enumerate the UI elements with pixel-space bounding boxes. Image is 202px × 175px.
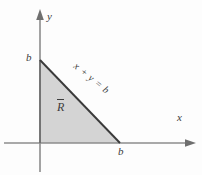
x-axis-label: x <box>177 112 182 123</box>
x-axis-tick-label-b: b <box>118 146 124 157</box>
y-axis-tick-label-b: b <box>26 52 32 63</box>
y-axis-arrowhead <box>36 9 44 20</box>
x-axis-arrowhead <box>185 139 196 147</box>
region-label-text: R <box>57 101 64 113</box>
y-axis-label: y <box>47 11 52 22</box>
region-label-r-bar: R <box>57 99 64 113</box>
math-figure: y x b b R x + y = b <box>0 0 202 175</box>
